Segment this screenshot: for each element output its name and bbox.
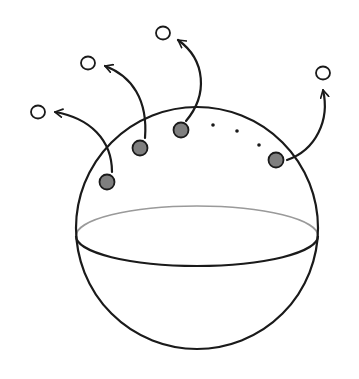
surface-particles: [100, 123, 284, 190]
escape-arrows: [55, 40, 325, 172]
escape-arrow: [105, 66, 145, 138]
equator-front-arc: [76, 236, 318, 266]
escape-arrow: [55, 112, 112, 172]
sphere-diagram: [0, 0, 359, 379]
escaped-particle: [31, 106, 45, 119]
surface-particle: [133, 141, 148, 156]
ellipsis-dots: [211, 123, 261, 147]
escaped-particles: [31, 27, 330, 119]
escaped-particle: [156, 27, 170, 40]
surface-particle: [174, 123, 189, 138]
escaped-particle: [316, 67, 330, 80]
escape-arrow: [287, 90, 325, 160]
sphere-outline: [76, 107, 318, 349]
surface-particle: [100, 175, 115, 190]
equator-back-arc: [76, 206, 318, 236]
ellipsis-dot: [235, 129, 239, 133]
ellipsis-dot: [211, 123, 215, 127]
escaped-particle: [81, 57, 95, 70]
ellipsis-dot: [257, 143, 261, 147]
surface-particle: [269, 153, 284, 168]
